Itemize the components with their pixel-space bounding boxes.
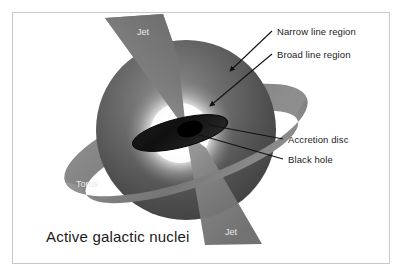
figure-title: Active galactic nuclei bbox=[46, 229, 190, 244]
label-broad-line-region: Broad line region bbox=[277, 50, 351, 60]
label-jet-top: Jet bbox=[137, 28, 149, 37]
label-jet-bottom: Jet bbox=[225, 228, 237, 237]
leader-narrow-line-region bbox=[230, 31, 272, 71]
label-torus: Torus bbox=[76, 180, 98, 189]
agn-diagram-figure: Narrow line region Broad line region Acc… bbox=[0, 0, 408, 278]
label-black-hole: Black hole bbox=[288, 155, 333, 165]
label-accretion-disc: Accretion disc bbox=[288, 135, 349, 145]
label-narrow-line-region: Narrow line region bbox=[277, 27, 356, 37]
